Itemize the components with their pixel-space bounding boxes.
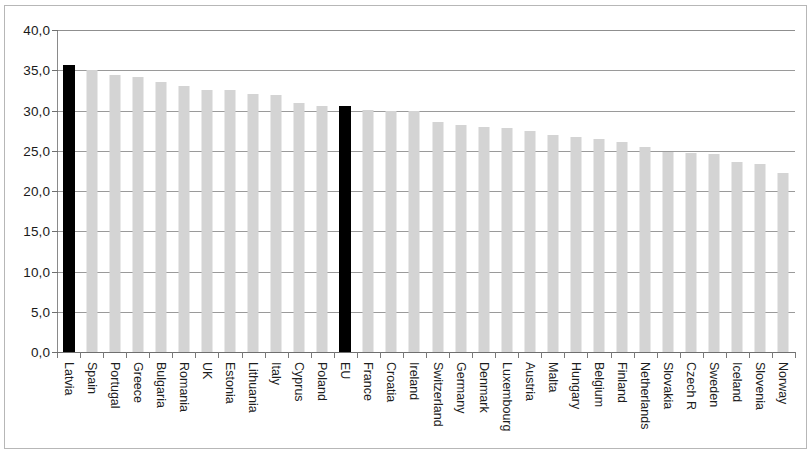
bar-slot <box>449 30 472 352</box>
x-axis-tick <box>357 352 358 358</box>
x-axis-tick <box>518 352 519 358</box>
bar-netherlands[interactable] <box>640 147 651 352</box>
bar-slot <box>495 30 518 352</box>
category-label-slot: Lithuania <box>242 360 265 450</box>
bar-slovenia[interactable] <box>755 164 766 352</box>
x-axis-tick <box>541 352 542 358</box>
x-axis-tick <box>587 352 588 358</box>
bar-portugal[interactable] <box>109 75 120 352</box>
bar-slot <box>242 30 265 352</box>
bar-france[interactable] <box>363 110 374 352</box>
bar-eu[interactable] <box>339 106 351 352</box>
category-label-slot: Luxembourg <box>495 360 518 450</box>
y-axis-tick <box>52 191 58 192</box>
y-axis-tick-label: 0,0 <box>4 345 50 360</box>
bar-slot <box>611 30 634 352</box>
y-axis-tick-label: 30,0 <box>4 103 50 118</box>
category-label-slot: Latvia <box>57 360 80 450</box>
bar-slot <box>311 30 334 352</box>
x-axis-tick <box>634 352 635 358</box>
bar-slot <box>80 30 103 352</box>
bar-spain[interactable] <box>86 70 97 352</box>
bar-austria[interactable] <box>524 131 535 352</box>
bar-switzerland[interactable] <box>432 122 443 352</box>
bar-romania[interactable] <box>178 86 189 352</box>
bar-denmark[interactable] <box>478 127 489 352</box>
x-axis-tick <box>334 352 335 358</box>
bar-slot <box>288 30 311 352</box>
category-label-slot: Finland <box>611 360 634 450</box>
bar-cyprus[interactable] <box>294 103 305 352</box>
category-label-slot: Germany <box>449 360 472 450</box>
bar-slot <box>334 30 357 352</box>
y-axis-tick-label: 10,0 <box>4 264 50 279</box>
x-axis-tick <box>195 352 196 358</box>
x-axis-tick <box>449 352 450 358</box>
category-label-slot: Italy <box>265 360 288 450</box>
bars-layer <box>57 30 795 352</box>
category-label-slot: UK <box>195 360 218 450</box>
category-label-slot: Romania <box>172 360 195 450</box>
bar-slot <box>57 30 80 352</box>
bar-slot <box>541 30 564 352</box>
category-label-slot: Denmark <box>472 360 495 450</box>
y-axis-tick-label: 15,0 <box>4 224 50 239</box>
x-axis-tick <box>149 352 150 358</box>
bar-slovakia[interactable] <box>663 152 674 352</box>
x-axis-tick <box>288 352 289 358</box>
y-axis-tick <box>52 231 58 232</box>
y-axis-tick-label: 20,0 <box>4 184 50 199</box>
y-axis-tick-label: 25,0 <box>4 143 50 158</box>
bar-slot <box>195 30 218 352</box>
category-label-slot: Iceland <box>726 360 749 450</box>
x-axis-tick <box>172 352 173 358</box>
bar-sweden[interactable] <box>709 154 720 352</box>
y-axis-tick <box>52 151 58 152</box>
category-label-slot: Greece <box>126 360 149 450</box>
x-axis-tick <box>657 352 658 358</box>
bar-ireland[interactable] <box>409 111 420 353</box>
category-label-slot: France <box>357 360 380 450</box>
bar-iceland[interactable] <box>732 162 743 352</box>
bar-luxembourg[interactable] <box>501 128 512 352</box>
bar-greece[interactable] <box>132 77 143 352</box>
category-label-slot: Austria <box>518 360 541 450</box>
bar-slot <box>703 30 726 352</box>
bar-croatia[interactable] <box>386 111 397 353</box>
x-axis-tick <box>403 352 404 358</box>
bar-latvia[interactable] <box>63 65 75 352</box>
bar-finland[interactable] <box>617 142 628 352</box>
y-axis-tick-label: 35,0 <box>4 63 50 78</box>
y-axis-labels: 0,05,010,015,020,025,030,035,040,0 <box>0 0 50 456</box>
bar-hungary[interactable] <box>570 137 581 352</box>
bar-slot <box>380 30 403 352</box>
bar-slot <box>218 30 241 352</box>
bar-italy[interactable] <box>271 95 282 352</box>
x-axis-tick <box>726 352 727 358</box>
bar-estonia[interactable] <box>224 90 235 352</box>
x-axis-tick <box>795 352 796 358</box>
x-axis-tick <box>749 352 750 358</box>
bar-poland[interactable] <box>317 106 328 352</box>
x-axis-tick <box>772 352 773 358</box>
bar-bulgaria[interactable] <box>155 82 166 352</box>
bar-malta[interactable] <box>547 135 558 352</box>
x-axis-tick <box>495 352 496 358</box>
bar-belgium[interactable] <box>593 139 604 352</box>
bar-czech-r[interactable] <box>686 153 697 352</box>
bar-slot <box>403 30 426 352</box>
bar-lithuania[interactable] <box>248 94 259 352</box>
category-label-slot: Norway <box>772 360 795 450</box>
bar-slot <box>103 30 126 352</box>
bar-norway[interactable] <box>778 173 789 353</box>
category-label-slot: Malta <box>541 360 564 450</box>
bar-slot <box>149 30 172 352</box>
y-axis-tick <box>52 70 58 71</box>
bar-germany[interactable] <box>455 125 466 352</box>
x-axis-tick <box>472 352 473 358</box>
y-axis-tick <box>52 272 58 273</box>
x-axis-tick <box>242 352 243 358</box>
bar-uk[interactable] <box>201 90 212 352</box>
x-axis-tick <box>265 352 266 358</box>
category-label-slot: Slovenia <box>749 360 772 450</box>
